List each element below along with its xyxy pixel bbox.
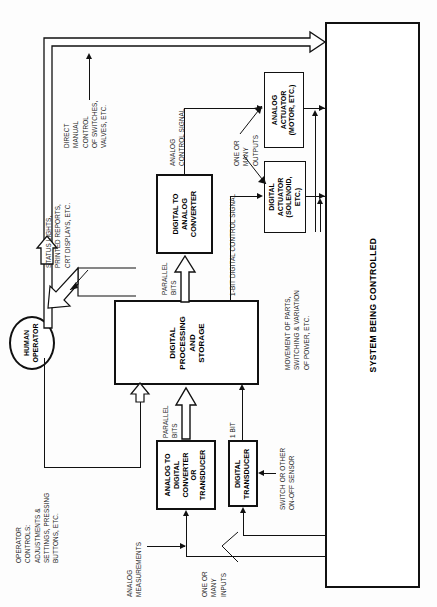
annotation-one-bit: 1 BIT — [228, 422, 237, 438]
arrowhead-movement-of-parts-b — [317, 198, 323, 204]
line-system-to-sensor-a — [186, 556, 325, 557]
adc-line2: DIGITAL — [172, 461, 181, 489]
dt-line1: DIGITAL — [233, 459, 242, 487]
line-system-to-sensor-b — [243, 535, 325, 536]
line-movement-of-parts-a — [315, 112, 316, 232]
adc-line4: OR — [189, 470, 198, 481]
arrowhead-switch-sensor-pointer — [258, 470, 264, 476]
annotation-one-or-many-outputs: ONE OR MANY OUTPUTS — [232, 135, 260, 166]
block-digital-transducer: DIGITAL TRANSDUCER — [228, 440, 258, 507]
annotation-operator-controls: OPERATOR CONTROLS: ADJUSTMENTS & SETTING… — [14, 493, 60, 563]
arrowhead-analog-actuator-to-system — [319, 105, 325, 111]
annotation-parallel-bits-out: PARALLEL BITS — [160, 262, 179, 295]
annotation-status-lights: STATUS LIGHTS, PRINTED REPORTS, CRT DISP… — [44, 203, 72, 268]
annotation-parallel-bits-in: PARALLEL BITS — [161, 405, 180, 438]
adc-line5: TRANSDUCER — [198, 450, 207, 500]
adc-line1: ANALOG TO — [163, 454, 172, 497]
adc-line3: CONVERTER — [181, 452, 190, 497]
annotation-direct-manual-control: DIRECT MANUAL CONTROL OF SWITCHES, VALVE… — [62, 101, 108, 148]
arrowhead-analog-measurements — [180, 543, 186, 549]
annotation-switch-or-other: SWITCH OR OTHER ON-OFF SENSOR — [278, 448, 297, 510]
arrowhead-into-adc — [183, 510, 189, 516]
leader-status-lights — [64, 268, 94, 298]
line-digital-transducer-to-processing — [242, 386, 243, 440]
annotation-1bit-digital-control-signal: 1-BIT DIGITAL CONTROL SIGNAL — [228, 194, 237, 296]
block-analog-to-digital-converter: ANALOG TO DIGITAL CONVERTER OR TRANSDUCE… — [156, 440, 216, 510]
arrowhead-into-digital-transducer — [240, 507, 246, 513]
arrowhead-movement-of-parts-a — [312, 110, 318, 116]
block-system-being-controlled: SYSTEM BEING CONTROLLED — [325, 22, 420, 588]
line-operator-controls-vertical — [44, 358, 45, 468]
block-adc-label: ANALOG TO DIGITAL CONVERTER OR TRANSDUCE… — [164, 450, 208, 500]
arrowhead-direct-manual-control — [86, 53, 92, 59]
block-system-label: SYSTEM BEING CONTROLLED — [367, 238, 377, 373]
dt-line2: TRANSDUCER — [242, 448, 251, 498]
line-operator-controls-riser — [140, 398, 141, 468]
annotation-movement-of-parts: MOVEMENT OF PARTS, SWITCHING & VARIATION… — [283, 290, 311, 370]
annotation-analog-measurements: ANALOG MEASUREMENTS — [125, 542, 144, 597]
line-movement-of-parts-b — [320, 200, 321, 232]
line-operator-controls-horizontal — [44, 467, 141, 468]
leader-one-or-many-inputs — [216, 528, 246, 568]
line-system-to-adc-riser — [186, 512, 187, 557]
line-direct-manual-control — [89, 56, 90, 100]
arrowhead-operator-controls-into-processing — [131, 382, 153, 404]
human-operator-line1: HUMAN — [23, 330, 30, 356]
diagram-canvas: SYSTEM BEING CONTROLLED HUMAN OPERATOR D… — [0, 0, 437, 607]
annotation-analog-control-signal: ANALOG CONTROL SIGNAL — [168, 108, 187, 166]
block-digital-transducer-label: DIGITAL TRANSDUCER — [234, 448, 252, 498]
annotation-one-or-many-inputs: ONE OR MANY INPUTS — [200, 571, 228, 597]
arrowhead-1bit-into-processing — [239, 384, 245, 390]
